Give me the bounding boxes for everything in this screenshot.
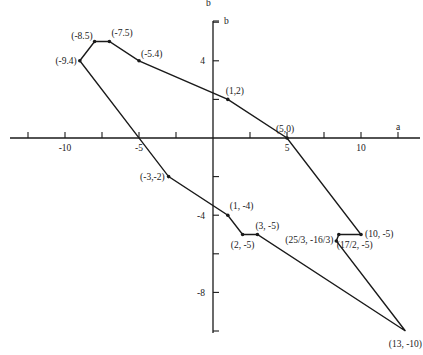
y-tick-label: -4 [197,211,205,221]
y-tick-label: 4 [200,56,205,66]
vertex-dot [337,233,341,237]
y-tick-label: -8 [197,288,205,298]
vertex-dot [359,233,363,237]
vertex-label: (1, -4) [230,201,254,212]
vertex-label: (1,2) [226,86,244,97]
vertex-label: (13, -10) [389,339,422,350]
x-tick-label: -10 [59,143,72,153]
vertex-label: (5,0) [276,124,294,135]
vertex-label: (17/2, -5) [337,240,373,251]
vertex-dot [167,175,171,179]
vertex-labels: (-9.4)(-8.5)(-7.5)(-5.4)(1,2)(5,0)(10, -… [55,28,422,351]
vertex-label: (25/3, -16/3) [285,235,333,246]
vertex-dot [137,59,141,63]
vertex-label: (-8.5) [71,31,92,42]
vertex-label: (2, -5) [231,240,255,251]
chart: -10-55104-4-8 (-9.4)(-8.5)(-7.5)(-5.4)(1… [0,0,423,355]
polygon-path [80,42,406,332]
x-tick-label: 10 [356,143,366,153]
vertex-dot [256,233,260,237]
x-axis-label: a [396,122,401,132]
vertex-dot [285,136,289,140]
vertex-dot [93,40,97,44]
y-axis-label: b [224,16,229,26]
vertex-dot [241,233,245,237]
x-tick-label: 5 [285,143,290,153]
vertex-label: (-7.5) [111,28,132,39]
vertex-label: (-3,-2) [140,172,165,183]
vertex-dot [226,213,230,217]
vertex-dot [226,98,230,102]
vertex-label: (-5.4) [141,49,162,60]
vertex-label: (-9.4) [55,56,76,67]
vertex-dot [78,59,82,63]
vertex-label: (10, -5) [365,229,394,240]
caption-fragment: b [206,0,211,8]
vertex-label: (3, -5) [255,221,279,232]
x-tick-label: -5 [135,143,143,153]
vertices [78,40,363,243]
vertex-dot [108,40,112,44]
